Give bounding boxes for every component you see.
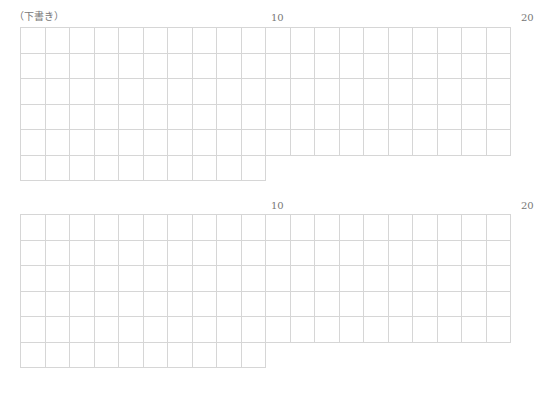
grid-cell[interactable] bbox=[388, 28, 413, 54]
grid-cell[interactable] bbox=[217, 291, 242, 317]
grid-cell[interactable] bbox=[45, 215, 70, 241]
grid-cell[interactable] bbox=[241, 28, 266, 54]
grid-cell[interactable] bbox=[70, 342, 95, 368]
grid-cell[interactable] bbox=[241, 53, 266, 79]
grid-cell[interactable] bbox=[143, 28, 168, 54]
grid-cell[interactable] bbox=[168, 266, 193, 292]
grid-cell[interactable] bbox=[437, 130, 462, 156]
grid-cell[interactable] bbox=[217, 79, 242, 105]
grid-cell[interactable] bbox=[192, 266, 217, 292]
grid-cell[interactable] bbox=[241, 215, 266, 241]
grid-cell[interactable] bbox=[168, 155, 193, 181]
grid-cell[interactable] bbox=[437, 215, 462, 241]
grid-cell[interactable] bbox=[45, 266, 70, 292]
grid-cell[interactable] bbox=[241, 104, 266, 130]
grid-cell[interactable] bbox=[462, 104, 487, 130]
grid-cell[interactable] bbox=[315, 317, 340, 343]
grid-cell[interactable] bbox=[339, 266, 364, 292]
grid-cell[interactable] bbox=[94, 53, 119, 79]
grid-cell[interactable] bbox=[315, 130, 340, 156]
grid-cell[interactable] bbox=[486, 317, 511, 343]
grid-cell[interactable] bbox=[437, 291, 462, 317]
grid-cell[interactable] bbox=[168, 342, 193, 368]
grid-cell[interactable] bbox=[119, 317, 144, 343]
grid-cell[interactable] bbox=[364, 266, 389, 292]
grid-cell[interactable] bbox=[388, 317, 413, 343]
grid-cell[interactable] bbox=[94, 215, 119, 241]
grid-cell[interactable] bbox=[94, 155, 119, 181]
grid-cell[interactable] bbox=[266, 215, 291, 241]
grid-cell[interactable] bbox=[119, 28, 144, 54]
grid-cell[interactable] bbox=[290, 266, 315, 292]
grid-cell[interactable] bbox=[119, 130, 144, 156]
grid-cell[interactable] bbox=[119, 79, 144, 105]
grid-cell[interactable] bbox=[241, 266, 266, 292]
grid-cell[interactable] bbox=[315, 266, 340, 292]
grid-cell[interactable] bbox=[143, 291, 168, 317]
grid-cell[interactable] bbox=[315, 79, 340, 105]
grid-cell[interactable] bbox=[486, 240, 511, 266]
grid-cell[interactable] bbox=[217, 240, 242, 266]
grid-cell[interactable] bbox=[437, 317, 462, 343]
grid-cell[interactable] bbox=[364, 53, 389, 79]
grid-cell[interactable] bbox=[94, 342, 119, 368]
grid-cell[interactable] bbox=[70, 104, 95, 130]
grid-cell[interactable] bbox=[21, 53, 46, 79]
grid-cell[interactable] bbox=[143, 130, 168, 156]
grid-cell[interactable] bbox=[70, 155, 95, 181]
grid-cell[interactable] bbox=[21, 28, 46, 54]
grid-cell[interactable] bbox=[339, 240, 364, 266]
grid-cell[interactable] bbox=[437, 28, 462, 54]
grid-cell[interactable] bbox=[217, 130, 242, 156]
grid-cell[interactable] bbox=[462, 266, 487, 292]
grid-cell[interactable] bbox=[437, 79, 462, 105]
grid-cell[interactable] bbox=[21, 317, 46, 343]
grid-cell[interactable] bbox=[462, 215, 487, 241]
grid-cell[interactable] bbox=[70, 215, 95, 241]
grid-cell[interactable] bbox=[168, 215, 193, 241]
grid-cell[interactable] bbox=[266, 240, 291, 266]
grid-cell[interactable] bbox=[486, 215, 511, 241]
grid-cell[interactable] bbox=[192, 240, 217, 266]
grid-cell[interactable] bbox=[364, 215, 389, 241]
grid-cell[interactable] bbox=[290, 53, 315, 79]
grid-cell[interactable] bbox=[266, 266, 291, 292]
grid-cell[interactable] bbox=[290, 130, 315, 156]
grid-cell[interactable] bbox=[70, 291, 95, 317]
grid-cell[interactable] bbox=[94, 291, 119, 317]
grid-cell[interactable] bbox=[437, 240, 462, 266]
grid-cell[interactable] bbox=[437, 104, 462, 130]
grid-cell[interactable] bbox=[70, 53, 95, 79]
grid-cell[interactable] bbox=[70, 317, 95, 343]
grid-cell[interactable] bbox=[70, 240, 95, 266]
grid-cell[interactable] bbox=[364, 28, 389, 54]
grid-cell[interactable] bbox=[143, 79, 168, 105]
grid-cell[interactable] bbox=[266, 79, 291, 105]
grid-cell[interactable] bbox=[45, 155, 70, 181]
grid-cell[interactable] bbox=[388, 53, 413, 79]
grid-cell[interactable] bbox=[437, 266, 462, 292]
grid-cell[interactable] bbox=[437, 53, 462, 79]
grid-cell[interactable] bbox=[266, 130, 291, 156]
grid-cell[interactable] bbox=[119, 104, 144, 130]
grid-cell[interactable] bbox=[45, 317, 70, 343]
grid-cell[interactable] bbox=[143, 342, 168, 368]
grid-cell[interactable] bbox=[217, 104, 242, 130]
grid-cell[interactable] bbox=[266, 28, 291, 54]
grid-cell[interactable] bbox=[388, 79, 413, 105]
grid-cell[interactable] bbox=[119, 266, 144, 292]
grid-cell[interactable] bbox=[192, 317, 217, 343]
grid-cell[interactable] bbox=[364, 317, 389, 343]
grid-cell[interactable] bbox=[486, 130, 511, 156]
grid-cell[interactable] bbox=[462, 240, 487, 266]
grid-cell[interactable] bbox=[388, 130, 413, 156]
grid-cell[interactable] bbox=[413, 53, 438, 79]
grid-cell[interactable] bbox=[486, 28, 511, 54]
grid-cell[interactable] bbox=[486, 104, 511, 130]
grid-cell[interactable] bbox=[388, 240, 413, 266]
grid-cell[interactable] bbox=[119, 53, 144, 79]
grid-cell[interactable] bbox=[388, 266, 413, 292]
grid-cell[interactable] bbox=[339, 215, 364, 241]
grid-cell[interactable] bbox=[290, 79, 315, 105]
grid-cell[interactable] bbox=[21, 291, 46, 317]
